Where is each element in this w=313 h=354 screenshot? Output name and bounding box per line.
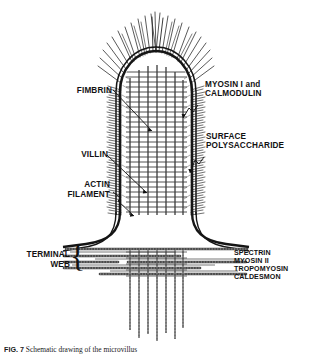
microvillus-illustration [0, 0, 313, 354]
terminal-web-bracket: { [70, 240, 86, 272]
label-fimbrin: FIMBRIN [50, 86, 112, 96]
caption-text: Schematic drawing of the microvillus [24, 345, 137, 354]
terminal-web-membrane-flare [63, 212, 249, 251]
caption-lead: FIG. 7 [4, 345, 24, 354]
figure-caption: FIG. 7 Schematic drawing of the microvil… [4, 345, 312, 354]
actin-rootlet [126, 243, 187, 341]
label-villin: VILLIN [50, 150, 108, 160]
lateral-membrane-coat [107, 86, 205, 215]
leader-lines [107, 90, 204, 217]
actin-filament-bundle [122, 65, 190, 215]
figure-container: FIMBRIN VILLIN ACTIN FILAMENT TERMINAL W… [0, 0, 313, 354]
